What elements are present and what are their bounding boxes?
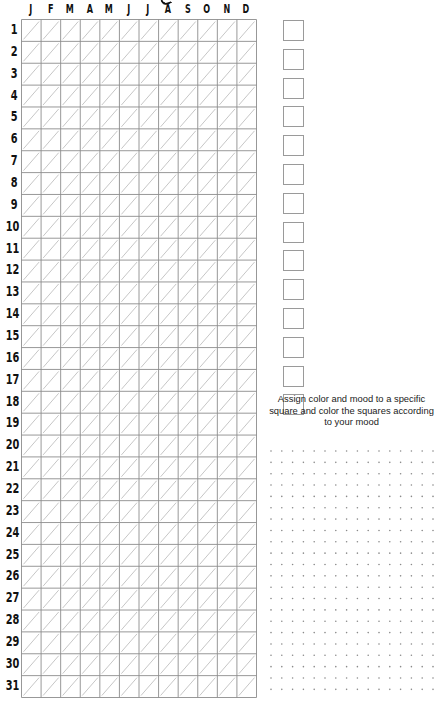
day-label: 18 xyxy=(6,391,19,413)
year-in-pixels-grid[interactable] xyxy=(21,19,256,697)
day-label: 27 xyxy=(6,587,19,609)
grid-lines xyxy=(21,19,257,698)
day-label: 31 xyxy=(6,675,19,697)
month-label: M xyxy=(64,0,76,18)
day-label: 15 xyxy=(6,325,19,347)
day-label: 9 xyxy=(6,194,19,216)
day-label: 1 xyxy=(6,19,19,41)
day-label: 2 xyxy=(6,41,19,63)
month-label: A xyxy=(83,0,95,18)
mood-square[interactable] xyxy=(283,337,304,358)
day-label: 6 xyxy=(6,128,19,150)
day-label: 11 xyxy=(6,238,19,260)
day-label: 24 xyxy=(6,522,19,544)
month-label: F xyxy=(44,0,56,18)
day-label: 28 xyxy=(6,609,19,631)
mood-square[interactable] xyxy=(283,106,304,127)
day-label: 16 xyxy=(6,347,19,369)
mood-square[interactable] xyxy=(283,78,304,99)
day-label: 5 xyxy=(6,106,19,128)
mood-legend-squares xyxy=(283,20,304,423)
day-label: 7 xyxy=(6,150,19,172)
day-label: 10 xyxy=(6,216,19,238)
day-label: 19 xyxy=(6,412,19,434)
mood-square[interactable] xyxy=(283,135,304,156)
month-label: O xyxy=(201,0,213,18)
mood-square[interactable] xyxy=(283,49,304,70)
day-label: 17 xyxy=(6,369,19,391)
mood-square[interactable] xyxy=(283,20,304,41)
day-label: 22 xyxy=(6,478,19,500)
month-label: J xyxy=(25,0,37,18)
month-label: N xyxy=(221,0,233,18)
dot-pattern xyxy=(269,449,437,699)
day-label: 23 xyxy=(6,500,19,522)
mood-square[interactable] xyxy=(283,222,304,243)
month-label: J xyxy=(123,0,135,18)
day-label: 13 xyxy=(6,281,19,303)
mood-square[interactable] xyxy=(283,308,304,329)
mood-square[interactable] xyxy=(283,366,304,387)
mood-square[interactable] xyxy=(283,279,304,300)
month-header: JFMAMJJASOND xyxy=(21,0,256,18)
month-label: A xyxy=(162,0,174,18)
instructions-text: Assign color and mood to a specific squa… xyxy=(266,393,437,428)
day-label: 14 xyxy=(6,303,19,325)
day-labels: 1234567891011121314151617181920212223242… xyxy=(0,19,19,697)
day-label: 26 xyxy=(6,565,19,587)
month-label: M xyxy=(103,0,115,18)
day-label: 4 xyxy=(6,85,19,107)
day-label: 29 xyxy=(6,631,19,653)
mood-square[interactable] xyxy=(283,164,304,185)
mood-square[interactable] xyxy=(283,250,304,271)
day-label: 25 xyxy=(6,544,19,566)
month-label: S xyxy=(181,0,193,18)
day-label: 3 xyxy=(6,63,19,85)
day-label: 12 xyxy=(6,259,19,281)
day-label: 30 xyxy=(6,653,19,675)
day-label: 20 xyxy=(6,434,19,456)
day-label: 8 xyxy=(6,172,19,194)
mood-square[interactable] xyxy=(283,193,304,214)
dot-grid-notes[interactable] xyxy=(269,449,437,703)
month-label: J xyxy=(142,0,154,18)
month-label: D xyxy=(240,0,252,18)
day-label: 21 xyxy=(6,456,19,478)
